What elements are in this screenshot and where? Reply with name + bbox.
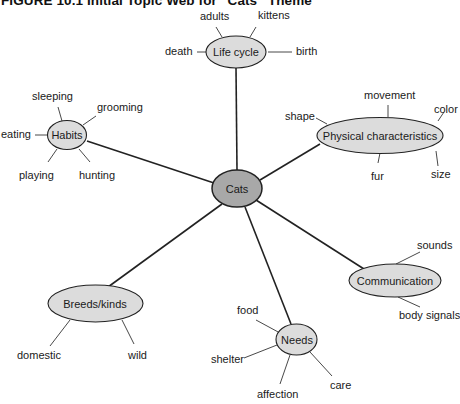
leaf-domestic: domestic bbox=[17, 349, 61, 361]
leaf-sleeping: sleeping bbox=[32, 90, 73, 102]
leaf-death: death bbox=[165, 45, 193, 57]
leaf-food: food bbox=[237, 304, 258, 316]
connector-communication bbox=[256, 200, 364, 269]
connector-physical bbox=[260, 144, 320, 180]
leaf-shape: shape bbox=[285, 110, 315, 122]
leaf-grooming: grooming bbox=[97, 101, 143, 113]
leaf-sounds: sounds bbox=[417, 239, 452, 251]
node-habits-label: Habits bbox=[51, 129, 82, 141]
node-breeds-label: Breeds/kinds bbox=[63, 298, 127, 310]
leaf-kittens: kittens bbox=[258, 9, 290, 21]
node-center-label: Cats bbox=[226, 183, 249, 195]
node-physical-label: Physical characteristics bbox=[323, 130, 437, 142]
leaf-movement: movement bbox=[364, 89, 415, 101]
leaf-eating: eating bbox=[1, 128, 31, 140]
node-communication-label: Communication bbox=[357, 275, 433, 287]
leaf-birth: birth bbox=[296, 45, 317, 57]
node-needs-label: Needs bbox=[281, 334, 313, 346]
leaf-affection: affection bbox=[257, 388, 298, 400]
leaf-care: care bbox=[330, 379, 351, 391]
leaf-wild: wild bbox=[128, 349, 147, 361]
leaf-body-signals: body signals bbox=[399, 309, 460, 321]
leaf-adults: adults bbox=[200, 10, 229, 22]
leaf-playing: playing bbox=[19, 169, 54, 181]
topic-web-diagram bbox=[0, 0, 460, 404]
leaf-shelter: shelter bbox=[211, 353, 244, 365]
connector-life-cycle bbox=[236, 68, 237, 170]
node-life-cycle-label: Life cycle bbox=[213, 46, 259, 58]
connector-breeds bbox=[108, 204, 222, 287]
leaf-color: color bbox=[434, 103, 458, 115]
leaf-size: size bbox=[431, 168, 451, 180]
leaf-fur: fur bbox=[371, 170, 384, 182]
leaf-hunting: hunting bbox=[79, 169, 115, 181]
